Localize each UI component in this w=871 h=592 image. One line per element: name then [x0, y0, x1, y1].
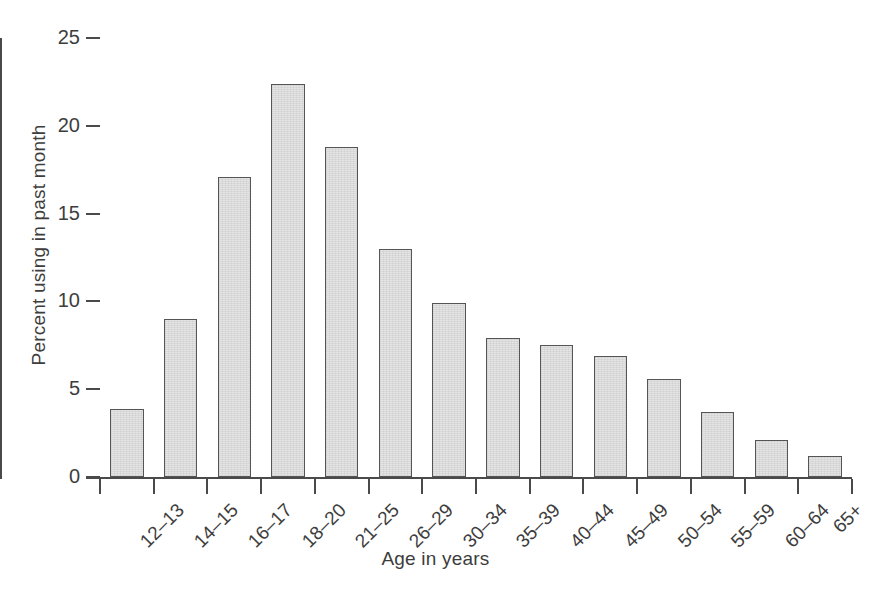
y-tick-mark [86, 476, 100, 478]
x-tick-mark [368, 479, 370, 494]
x-tick-label: 16–17 [244, 500, 296, 552]
x-tick-label: 12–13 [137, 500, 189, 552]
x-tick-label: 40–44 [567, 500, 619, 552]
y-tick-label: 0 [30, 466, 80, 486]
bar [755, 440, 788, 477]
y-tick-mark [86, 125, 100, 127]
x-tick-label: 30–34 [459, 500, 511, 552]
x-tick-label: 26–29 [406, 500, 458, 552]
bar [218, 177, 251, 477]
x-tick-label: 50–54 [674, 500, 726, 552]
bar [808, 456, 841, 477]
x-tick-mark [206, 479, 208, 494]
x-tick-label: 18–20 [298, 500, 350, 552]
y-tick-label: 15 [30, 203, 80, 223]
bar [379, 249, 412, 477]
y-tick-label: 10 [30, 290, 80, 310]
bar-chart: Percent using in past month 0510152025 1… [0, 0, 871, 592]
x-axis-title: Age in years [0, 548, 871, 570]
bar [540, 345, 573, 477]
x-tick-label: 55–59 [728, 500, 780, 552]
x-tick-mark [260, 479, 262, 494]
y-tick-label: 20 [30, 115, 80, 135]
y-axis-title: Percent using in past month [22, 10, 56, 480]
y-axis-line [0, 38, 2, 479]
x-tick-label: 14–15 [191, 500, 243, 552]
x-tick-mark [475, 479, 477, 494]
x-tick-mark [529, 479, 531, 494]
y-tick-label: 25 [30, 27, 80, 47]
x-tick-mark [421, 479, 423, 494]
bar [110, 409, 143, 477]
x-tick-mark [582, 479, 584, 494]
y-tick-mark [86, 388, 100, 390]
bar [432, 303, 465, 477]
x-tick-mark [851, 479, 853, 494]
x-tick-label: 45–49 [620, 500, 672, 552]
x-tick-label: 35–39 [513, 500, 565, 552]
y-tick-mark [86, 213, 100, 215]
x-tick-mark [797, 479, 799, 494]
x-tick-mark [690, 479, 692, 494]
x-tick-mark [744, 479, 746, 494]
y-tick-mark [86, 37, 100, 39]
bar [647, 379, 680, 477]
x-tick-label: 60–64 [782, 500, 834, 552]
x-tick-mark [153, 479, 155, 494]
y-tick-label: 5 [30, 378, 80, 398]
x-tick-mark [636, 479, 638, 494]
bar [594, 356, 627, 477]
x-tick-label: 21–25 [352, 500, 404, 552]
y-tick-mark [86, 300, 100, 302]
bar [325, 147, 358, 477]
x-tick-mark [99, 479, 101, 494]
x-tick-mark [314, 479, 316, 494]
bar [701, 412, 734, 477]
x-axis-line [86, 477, 852, 479]
x-tick-label: 65+ [829, 500, 866, 537]
bar [164, 319, 197, 477]
bar [271, 84, 304, 477]
bar [486, 338, 519, 477]
